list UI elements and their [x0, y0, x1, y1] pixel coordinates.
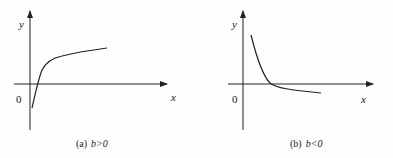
x-axis-label-b: x: [360, 93, 366, 105]
panel-b: y x 0 (b)b<0: [228, 11, 373, 150]
origin-label-a: 0: [16, 93, 22, 105]
x-axis-label-a: x: [170, 91, 176, 103]
curve-a: [32, 48, 107, 108]
origin-label-b: 0: [232, 93, 238, 105]
y-axis-label-a: y: [18, 18, 24, 30]
panel-a: y x 0 (a)b>0: [14, 11, 176, 150]
y-axis-label-b: y: [231, 18, 237, 30]
caption-b: (b)b<0: [290, 138, 322, 150]
caption-a: (a)b>0: [76, 138, 108, 150]
figure-canvas: y x 0 (a)b>0 y x 0 (b)b<0: [0, 0, 393, 158]
